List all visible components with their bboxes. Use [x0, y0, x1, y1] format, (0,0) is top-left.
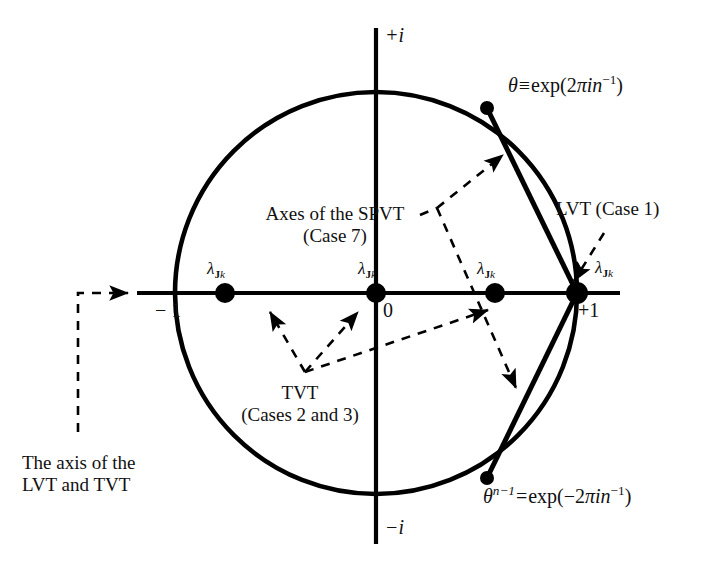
lambda-subscript-k: k — [608, 267, 613, 279]
spvt-leader-upper — [437, 155, 503, 208]
annotation-spvt-line1: Axes of the SPVT — [240, 203, 430, 225]
axis-label-negative-i: −i — [385, 516, 404, 540]
axis-label-negative-one: − 1 — [155, 299, 181, 323]
theta-symbol: θ — [483, 485, 493, 507]
annotation-tvt-line2: (Cases 2 and 3) — [185, 404, 415, 426]
annotation-tvt: TVT (Cases 2 and 3) — [185, 382, 415, 427]
theta-relation: ≡ — [518, 74, 531, 96]
axis-label-positive-one: +1 — [578, 299, 599, 323]
spvt-leader-lower — [437, 208, 516, 388]
theta-exponent: n−1 — [493, 483, 515, 498]
axis-label-origin: 0 — [383, 299, 393, 323]
axis-note-leader — [78, 293, 128, 432]
theta-symbol: θ — [508, 74, 518, 96]
lambda-label-origin: λJk — [358, 259, 376, 282]
theta-relation: = — [515, 485, 528, 507]
lambda-label-mid-right: λJk — [477, 259, 495, 282]
theta-expression: exp(2πin−1) — [531, 74, 623, 96]
annotation-theta-lower: θn−1=exp(−2πin−1) — [483, 483, 631, 508]
tvt-leader-to-left-dot — [270, 312, 305, 372]
annotation-axis-note: The axis of the LVT and TVT — [22, 452, 202, 497]
lambda-label-left: λJk — [207, 259, 225, 282]
annotation-theta-upper: θ≡exp(2πin−1) — [508, 72, 623, 97]
lambda-label-plus-one: λJk — [595, 258, 613, 281]
lambda-subscript-k: k — [220, 268, 225, 280]
lambda-subscript-k: k — [490, 268, 495, 280]
annotation-axis-note-line2: LVT and TVT — [22, 474, 202, 496]
eigenvalue-dot-mid-right — [485, 283, 505, 303]
annotation-lvt: LVT (Case 1) — [556, 198, 716, 220]
annotation-spvt-line2: (Case 7) — [240, 225, 430, 247]
annotation-lvt-line1: LVT (Case 1) — [556, 198, 716, 220]
theta-expression: exp(−2πin−1) — [528, 485, 631, 507]
lambda-subscript-k: k — [371, 268, 376, 280]
figure-root: +i −i − 1 +1 0 λJk λJk λJk λJk θ≡exp(2πi… — [0, 0, 718, 570]
annotation-axis-note-line1: The axis of the — [22, 452, 202, 474]
axis-label-positive-i: +i — [385, 24, 404, 48]
eigenvalue-dot-left — [215, 283, 235, 303]
annotation-tvt-line1: TVT — [185, 382, 415, 404]
theta-dot-upper — [480, 101, 494, 115]
tvt-leader-to-origin-dot — [305, 312, 358, 372]
annotation-spvt: Axes of the SPVT (Case 7) — [240, 203, 430, 248]
chord-lower-lvt — [487, 293, 577, 478]
